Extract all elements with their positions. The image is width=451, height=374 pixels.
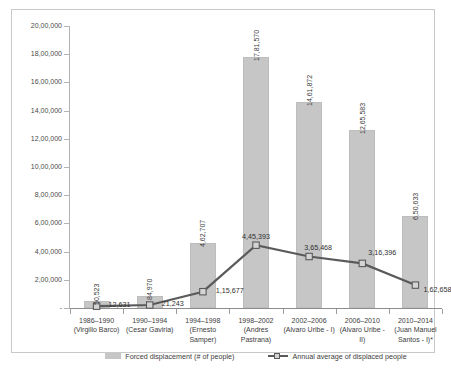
line-marker — [412, 282, 418, 288]
line-marker-swatch-icon — [268, 353, 288, 360]
bar-swatch-icon — [105, 353, 121, 359]
line-marker — [200, 289, 206, 295]
x-axis-category-label: 1994–1998 (Ernesto Samper) — [176, 316, 229, 344]
y-axis-tick-label: 12,00,000 — [31, 135, 62, 142]
bar-value-label: 12,65,583 — [359, 102, 366, 133]
line-series — [70, 26, 442, 308]
bar-value-label: 50,523 — [93, 283, 100, 304]
x-axis-tick — [283, 309, 284, 314]
y-axis-tick-label: - — [60, 304, 62, 311]
y-axis-tick-label: 2,00,000 — [35, 276, 62, 283]
x-axis-tick — [389, 309, 390, 314]
line-value-label: 1,15,677 — [216, 286, 244, 295]
line-marker — [147, 302, 153, 308]
y-axis-tick-label: 20,00,000 — [31, 22, 62, 29]
x-axis-category-label: 2006–2010 (Alvaro Uribe - II) — [336, 316, 389, 344]
line-marker — [306, 253, 312, 259]
legend-item-forced-displacement: Forced displacement (# of people) — [105, 352, 234, 361]
bar-value-label: 4,62,707 — [199, 220, 206, 247]
y-axis-tick-label: 16,00,000 — [31, 78, 62, 85]
bar-value-label: 84,970 — [146, 279, 153, 300]
legend-label-forced-displacement: Forced displacement (# of people) — [125, 352, 234, 361]
chart-legend: Forced displacement (# of people) Annual… — [70, 350, 442, 362]
line-marker — [253, 242, 259, 248]
x-axis-category-label: 1998–2002 (Andres Pastrana) — [229, 316, 282, 344]
y-axis-tick-label: 4,00,000 — [35, 248, 62, 255]
x-axis-category-label: 1986–1990 (Virgilio Barco) — [70, 316, 123, 335]
plot-area — [70, 26, 442, 308]
y-axis-tick-label: 18,00,000 — [31, 50, 62, 57]
line-value-label: 12,631 — [109, 300, 131, 309]
x-axis-tick — [442, 309, 443, 314]
x-axis-tick — [70, 309, 71, 314]
legend-item-annual-average: Annual average of displaced people — [268, 352, 406, 361]
y-axis-tick-label: 6,00,000 — [35, 219, 62, 226]
x-axis-category-label: 2010–2014 (Juan Manuel Santos - I)* — [389, 316, 442, 344]
line-value-label: 1,62,658 — [423, 285, 451, 294]
x-axis-category-label: 2002–2006 (Alvaro Uribe - I) — [283, 316, 336, 335]
bar-value-label: 17,81,570 — [253, 30, 260, 61]
x-axis-tick — [176, 309, 177, 314]
chart-plot-frame: -2,00,0004,00,0006,00,0008,00,00010,00,0… — [11, 9, 435, 353]
y-axis-tick-label: 8,00,000 — [35, 191, 62, 198]
line-value-label: 21,243 — [162, 299, 184, 308]
y-axis-tick-label: 10,00,000 — [31, 163, 62, 170]
y-axis-tick-label: 14,00,000 — [31, 107, 62, 114]
line-value-label: 3,65,468 — [304, 243, 332, 252]
x-axis-category-label: 1990–1994 (Cesar Gaviria) — [123, 316, 176, 335]
x-axis-tick — [123, 309, 124, 314]
line-marker — [359, 260, 365, 266]
bar-value-label: 14,61,872 — [306, 75, 313, 106]
legend-label-annual-average: Annual average of displaced people — [292, 352, 406, 361]
line-value-label: 4,45,393 — [242, 232, 270, 241]
x-axis-tick — [229, 309, 230, 314]
bar-value-label: 6,50,633 — [412, 193, 419, 220]
x-axis-tick — [336, 309, 337, 314]
line-value-label: 3,16,396 — [368, 248, 396, 257]
